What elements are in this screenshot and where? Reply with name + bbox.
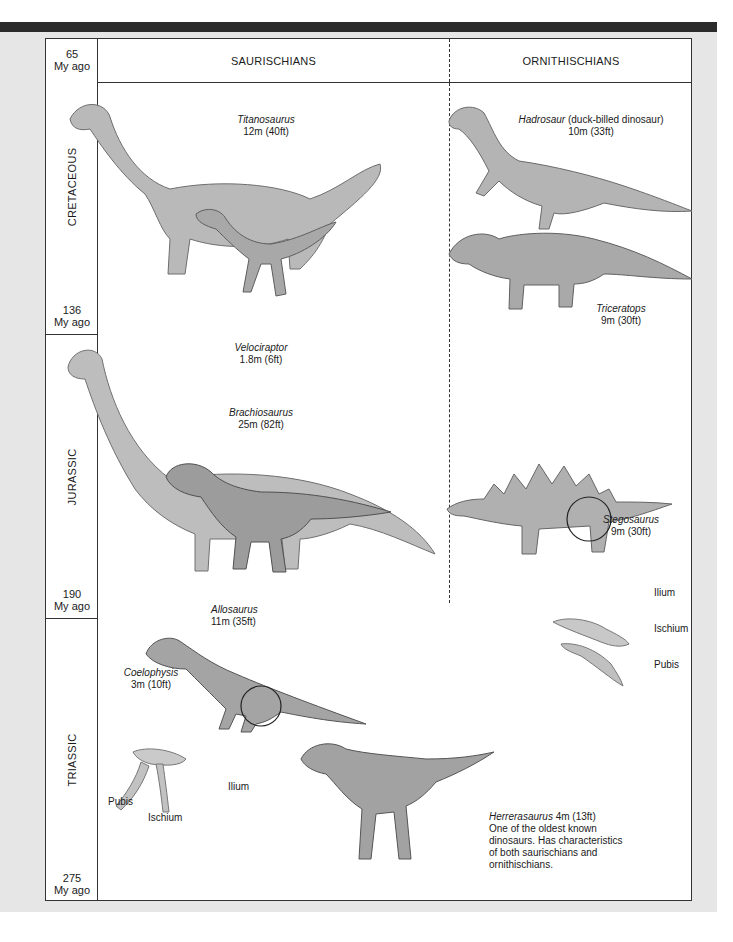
velociraptor-illustration [191,204,341,304]
age-number: 190 [46,588,98,600]
species-name: Herrerasaurus [489,811,553,822]
species-size: 10m (33ft) [568,126,614,137]
ornithischian-ischium-label: Ischium [654,623,688,635]
hadrosaur-label: Hadrosaur (duck-billed dinosaur) 10m (33… [506,114,676,138]
species-size: 3m (10ft) [131,679,171,690]
saurischian-pubis-label: Pubis [108,796,133,808]
era-name-triassic: TRIASSIC [66,733,78,786]
species-size: 12m (40ft) [243,126,289,137]
ornithischian-pubis-label: Pubis [654,659,679,671]
age-unit: My ago [46,316,98,328]
allosaurus-label: Allosaurus 11m (35ft) [211,604,301,628]
age-number: 65 [46,48,98,60]
age-label-65: 65 My ago [46,48,98,72]
saurischian-ischium-label: Ischium [148,812,182,824]
species-name: Allosaurus [211,604,258,615]
top-bar [0,22,717,32]
age-label-275: 275 My ago [46,872,98,896]
species-description: One of the oldest known dinosaurs. Has c… [489,823,622,870]
header-ornithischians: ORNITHISCHIANS [449,39,693,83]
brachiosaurus-label: Brachiosaurus 25m (82ft) [211,407,311,431]
species-name: Brachiosaurus [229,407,293,418]
age-unit: My ago [46,60,98,72]
velociraptor-label: Velociraptor 1.8m (6ft) [216,342,306,366]
age-number: 275 [46,872,98,884]
coelophysis-label: Coelophysis 3m (10ft) [111,667,191,691]
species-name: Coelophysis [124,667,178,678]
herrerasaurus-label: Herrerasaurus 4m (13ft) One of the oldes… [489,811,629,871]
species-name: Stegosaurus [603,514,659,525]
age-label-190: 190 My ago [46,588,98,612]
species-note: (duck-billed dinosaur) [565,114,663,125]
dinosaur-chart-frame: 65 My ago CRETACEOUS 136 My ago JURASSIC… [45,38,692,901]
saurischian-ilium-label: Ilium [228,781,249,793]
species-size: 11m (35ft) [211,616,256,627]
titanosaurus-label: Titanosaurus 12m (40ft) [206,114,326,138]
age-number: 136 [46,304,98,316]
stegosaurus-label: Stegosaurus 9m (30ft) [586,514,676,538]
species-name: Velociraptor [235,342,288,353]
age-unit: My ago [46,884,98,896]
herrerasaurus-illustration [296,734,496,864]
allosaurus-illustration [161,457,411,577]
species-size: 4m (13ft) [553,811,596,822]
species-name: Titanosaurus [237,114,295,125]
species-size: 1.8m (6ft) [240,354,283,365]
species-name: Triceratops [596,303,645,314]
ornithischian-hip-illustration [551,614,641,689]
header-row: SAURISCHIANS ORNITHISCHIANS [98,39,691,83]
triceratops-label: Triceratops 9m (30ft) [581,303,661,327]
species-name: Hadrosaur [518,114,565,125]
header-divider [449,39,450,82]
age-label-136: 136 My ago [46,304,98,328]
ornithischian-ilium-label: Ilium [654,587,675,599]
species-size: 25m (82ft) [238,419,284,430]
era-triassic: TRIASSIC 275 My ago [46,619,98,900]
species-size: 9m (30ft) [601,315,641,326]
species-size: 9m (30ft) [611,526,651,537]
age-unit: My ago [46,600,98,612]
header-saurischians: SAURISCHIANS [98,39,449,83]
triceratops-illustration [444,219,694,314]
